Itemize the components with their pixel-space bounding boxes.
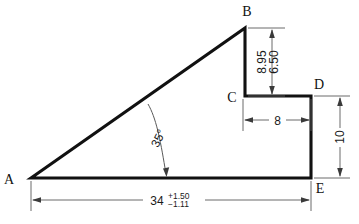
dim-text-de: 10 — [333, 130, 347, 144]
arrow-de-bottom — [337, 168, 343, 177]
dim-text-base-tol-lower: −1.11 — [168, 199, 189, 209]
arrow-bc-top — [269, 29, 275, 38]
dim-de-group: 10 — [333, 130, 347, 144]
vertex-label-d: D — [314, 77, 324, 92]
vertex-label-c: C — [227, 90, 236, 105]
arrow-angle — [163, 167, 169, 177]
figure-svg: A B C D E 8.95 6.50 8 — [0, 0, 359, 224]
arrow-base-left — [32, 197, 41, 203]
arrow-cd-right — [301, 117, 310, 123]
vertex-label-e: E — [316, 181, 325, 196]
technical-drawing-canvas: A B C D E 8.95 6.50 8 — [0, 0, 359, 224]
dim-text-angle: 35° — [148, 127, 169, 150]
arrow-base-right — [301, 197, 310, 203]
dim-text-base-nominal: 34 — [150, 194, 164, 208]
arrow-de-top — [337, 97, 343, 106]
vertex-label-b: B — [242, 4, 251, 19]
vertex-label-a: A — [4, 172, 15, 187]
dim-bc-lower-group: 6.50 — [267, 50, 281, 74]
arrow-bc-bottom — [269, 86, 275, 95]
arrow-cd-left — [244, 117, 253, 123]
dim-text-cd: 8 — [274, 114, 281, 128]
dim-angle-group: 35° — [148, 127, 169, 150]
dim-text-bc-lower: 6.50 — [267, 50, 281, 74]
